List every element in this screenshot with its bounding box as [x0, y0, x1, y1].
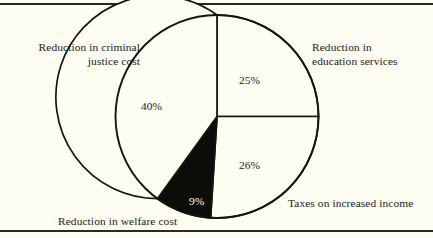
pie-slice-education-services[interactable] [217, 15, 319, 117]
slice-value-criminal-justice: 40% [141, 100, 162, 113]
slice-label-criminal-justice: Reduction in criminal justice cost [10, 40, 140, 68]
slice-value-taxes-income: 26% [239, 159, 260, 172]
slice-value-welfare-cost: 9% [189, 195, 204, 208]
pie-chart-figure: Reduction in criminal justice cost Reduc… [0, 0, 433, 238]
slice-label-education-services: Reduction in education services [312, 40, 427, 68]
slice-value-education-services: 25% [239, 74, 260, 87]
slice-label-welfare-cost: Reduction in welfare cost [58, 214, 218, 228]
slice-label-taxes-income: Taxes on increased income [288, 196, 430, 210]
